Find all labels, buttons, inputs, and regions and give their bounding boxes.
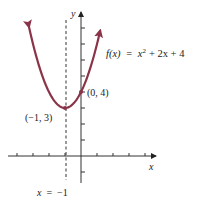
vertex-label: (−1, 3) (25, 112, 52, 124)
axis-of-symmetry-label: x=−1 (36, 187, 68, 198)
vertex-point (63, 106, 67, 110)
y-intercept-label: (0, 4) (87, 87, 109, 99)
y-intercept-point (79, 90, 83, 94)
parabola-chart: y x f(x) = x2+ 2x + 4 (0, 4) (−1, 3) x=−… (0, 0, 218, 217)
y-axis-label: y (70, 8, 76, 19)
function-label: f(x) = x2+ 2x + 4 (106, 47, 185, 60)
x-axis-label: x (148, 161, 154, 172)
y-ticks (81, 28, 85, 172)
